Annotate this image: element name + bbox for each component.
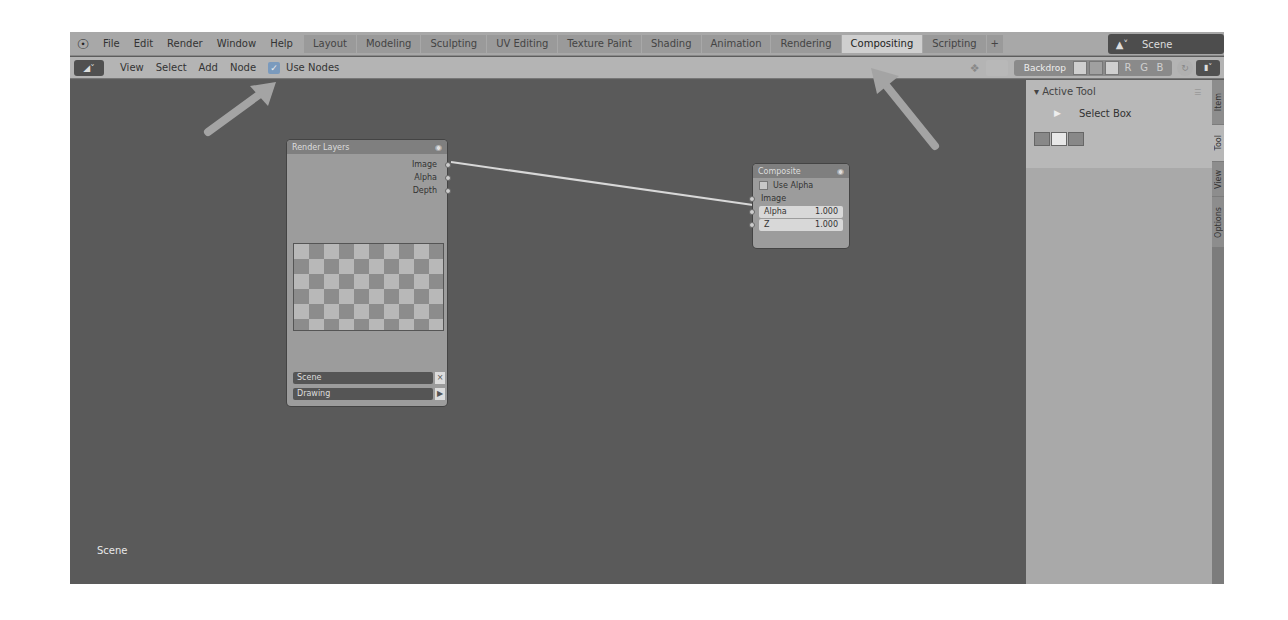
render-layer-icon[interactable]: ▶ [435, 388, 445, 400]
channel-r-button[interactable]: R [1121, 61, 1135, 75]
annotation-arrow-compositing-icon [865, 66, 945, 156]
view-layer-dropdown[interactable]: Drawing [293, 388, 433, 400]
menu-help[interactable]: Help [263, 38, 300, 49]
node-editor-icon: ◢˅ [83, 63, 94, 73]
editor-header: ◢˅ View Select Add Node ✓ Use Nodes ❖ Ba… [70, 57, 1224, 79]
alpha-field-value: 1.000 [815, 206, 838, 218]
blender-window: ☉ File Edit Render Window Help Layout Mo… [70, 32, 1224, 584]
composite-title: Composite [758, 167, 801, 176]
collapse-arrow-icon: ▾ [1034, 86, 1042, 97]
image-output-socket[interactable] [445, 162, 451, 168]
use-alpha-label: Use Alpha [773, 181, 813, 190]
blender-logo-icon[interactable]: ☉ [70, 32, 96, 56]
tab-rendering[interactable]: Rendering [771, 35, 840, 53]
tab-options-label: Options [1214, 207, 1223, 238]
tab-scripting[interactable]: Scripting [923, 35, 985, 53]
menu-edit[interactable]: Edit [127, 38, 160, 49]
output-image-label: Image [412, 160, 437, 169]
backdrop-rgba-icon[interactable] [1105, 61, 1119, 75]
use-nodes-toggle[interactable]: ✓ Use Nodes [268, 62, 339, 74]
mode-subtract-icon[interactable] [1068, 132, 1084, 146]
use-alpha-checkbox[interactable] [759, 181, 768, 190]
channel-b-button[interactable]: B [1153, 61, 1167, 75]
add-workspace-button[interactable]: + [987, 35, 1003, 53]
composite-header[interactable]: Composite ◉ [753, 164, 849, 178]
scene-dropdown[interactable]: Scene [293, 372, 433, 384]
drag-handle-icon[interactable]: ☰ [1194, 88, 1204, 97]
tab-tool[interactable]: Tool [1212, 125, 1224, 161]
tab-item[interactable]: Item [1212, 80, 1224, 124]
mode-set-icon[interactable] [1034, 132, 1050, 146]
backdrop-alpha-icon[interactable] [1089, 61, 1103, 75]
use-alpha-toggle[interactable]: Use Alpha [753, 178, 849, 192]
render-layers-title: Render Layers [292, 143, 350, 152]
tab-view-label: View [1214, 170, 1223, 189]
backdrop-rgb-icon[interactable] [1073, 61, 1087, 75]
z-field-value: 1.000 [815, 219, 838, 231]
tab-item-label: Item [1214, 93, 1223, 111]
workspace-tabs: Layout Modeling Sculpting UV Editing Tex… [304, 35, 1003, 53]
z-field[interactable]: Z 1.000 [759, 219, 843, 231]
select-box-tool[interactable]: ▶ Select Box [1034, 106, 1204, 120]
backdrop-group: Backdrop R G B [1014, 60, 1172, 76]
alpha-field[interactable]: Alpha 1.000 [759, 206, 843, 218]
tab-texture-paint[interactable]: Texture Paint [558, 35, 641, 53]
render-layers-header[interactable]: Render Layers ◉ [287, 140, 447, 154]
gizmo-toggle-icon[interactable]: ↻ [1177, 60, 1193, 76]
scene-selector[interactable]: ▲˅ Scene [1108, 34, 1224, 54]
tab-compositing[interactable]: Compositing [842, 35, 923, 53]
view-layer-value: Drawing [297, 389, 330, 398]
menu-file[interactable]: File [96, 38, 127, 49]
menu-window[interactable]: Window [210, 38, 263, 49]
editor-type-button[interactable]: ◢˅ [74, 60, 104, 76]
tab-tool-label: Tool [1214, 135, 1223, 151]
clear-scene-icon[interactable]: × [435, 372, 445, 384]
node-globe-icon: ◉ [837, 167, 844, 176]
output-image: Image [287, 158, 447, 171]
main-menu: File Edit Render Window Help [96, 38, 300, 49]
tab-shading[interactable]: Shading [642, 35, 701, 53]
sidebar-tabs: Item Tool View Options [1212, 80, 1224, 584]
scene-icon: ▲˅ [1108, 39, 1136, 50]
depth-output-socket[interactable] [445, 188, 451, 194]
node-tree-button[interactable] [986, 60, 1008, 76]
alpha-field-label: Alpha [764, 206, 787, 218]
tool-name: Select Box [1079, 108, 1132, 119]
backdrop-toggle[interactable]: Backdrop [1018, 63, 1072, 73]
render-preview-image [293, 243, 444, 331]
node-canvas[interactable]: Render Layers ◉ Image Alpha Depth Scene … [70, 80, 1026, 584]
composite-node[interactable]: Composite ◉ Use Alpha Image Alpha 1.000 … [753, 164, 849, 248]
tab-animation[interactable]: Animation [702, 35, 771, 53]
tab-modeling[interactable]: Modeling [357, 35, 421, 53]
tab-uv-editing[interactable]: UV Editing [487, 35, 557, 53]
alpha-output-socket[interactable] [445, 175, 451, 181]
z-input-socket[interactable] [749, 222, 755, 228]
render-layers-node[interactable]: Render Layers ◉ Image Alpha Depth Scene … [287, 140, 447, 406]
tab-sculpting[interactable]: Sculpting [421, 35, 486, 53]
z-field-label: Z [764, 219, 769, 231]
editor-menu: View Select Add Node [114, 62, 262, 73]
tab-options[interactable]: Options [1212, 197, 1224, 247]
output-depth: Depth [287, 184, 447, 197]
menu-node[interactable]: Node [224, 62, 262, 73]
image-input-socket[interactable] [749, 196, 755, 202]
menu-select[interactable]: Select [150, 62, 193, 73]
canvas-scene-label: Scene [97, 545, 128, 556]
channel-g-button[interactable]: G [1137, 61, 1151, 75]
scene-name: Scene [1136, 39, 1173, 50]
menu-render[interactable]: Render [160, 38, 210, 49]
use-nodes-checkbox[interactable]: ✓ [268, 62, 280, 74]
overlay-dropdown[interactable]: ▮˅ [1196, 60, 1220, 76]
alpha-input-socket[interactable] [749, 209, 755, 215]
mode-extend-icon[interactable] [1051, 132, 1067, 146]
tab-view[interactable]: View [1212, 162, 1224, 196]
input-image-label: Image [761, 194, 786, 203]
tab-layout[interactable]: Layout [304, 35, 356, 53]
pin-icon[interactable]: ❖ [970, 62, 980, 75]
menu-add[interactable]: Add [193, 62, 224, 73]
input-image: Image [753, 192, 849, 205]
header-right-controls: ❖ Backdrop R G B ↻ ▮˅ [970, 60, 1220, 76]
active-tool-title: Active Tool [1042, 86, 1096, 97]
active-tool-header[interactable]: ▾ Active Tool [1034, 84, 1204, 100]
menu-view[interactable]: View [114, 62, 150, 73]
